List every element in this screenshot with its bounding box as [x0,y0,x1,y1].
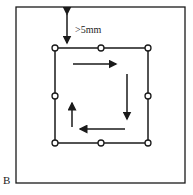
panel-label: B [3,174,10,186]
distance-label: >5mm [75,24,101,35]
electrode-circles [52,45,151,146]
flow-arrows [72,64,127,129]
